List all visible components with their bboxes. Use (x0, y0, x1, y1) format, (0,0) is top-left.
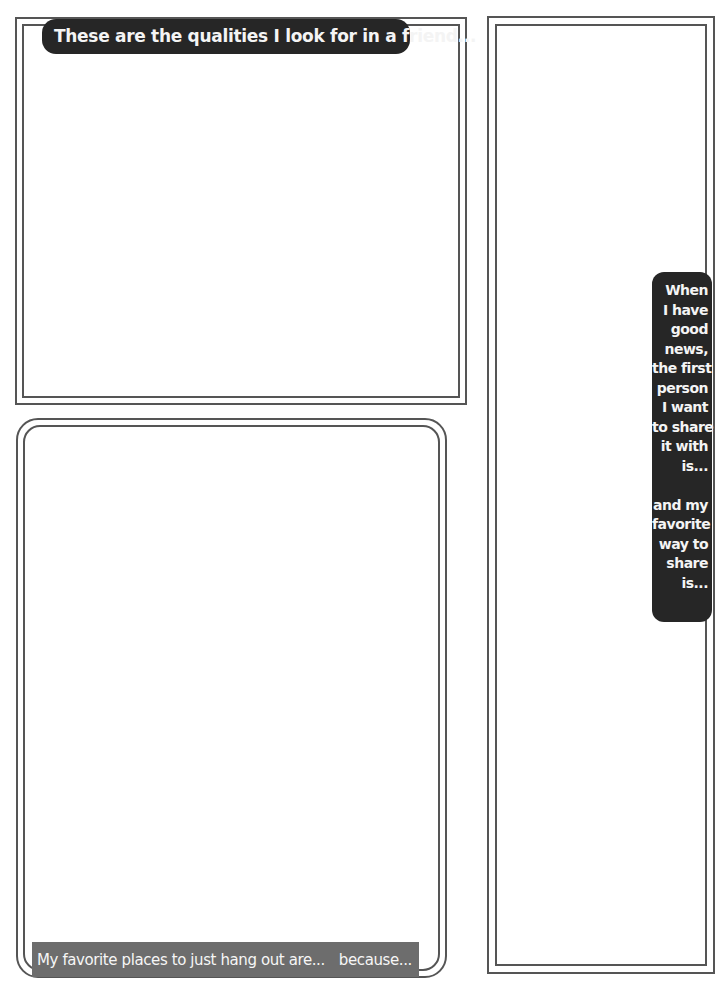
prompt-line: is... (652, 574, 708, 594)
prompt-line: share (652, 554, 708, 574)
prompt-line: is... (652, 457, 708, 477)
prompt-line: I have (652, 301, 708, 321)
prompt-line: the first (652, 359, 708, 379)
prompt-line: to share (652, 418, 708, 438)
prompt-line: it with (652, 437, 708, 457)
prompt-line: way to (652, 535, 708, 555)
prompt-line: good (652, 320, 708, 340)
prompt-spacer (652, 476, 708, 496)
hangout-prompt-label: My favorite places to just hang out are.… (32, 942, 419, 977)
qualities-writing-box[interactable] (15, 17, 467, 405)
qualities-prompt-label: These are the qualities I look for in a … (42, 19, 410, 54)
prompt-line: When (652, 281, 708, 301)
prompt-line: person (652, 379, 708, 399)
hangout-box-inner-border (23, 425, 440, 971)
prompt-line: favorite (652, 515, 708, 535)
good-news-prompt-label: When I have good news, the first person … (652, 272, 712, 622)
prompt-line: I want (652, 398, 708, 418)
qualities-box-inner-border (22, 24, 460, 398)
prompt-line: news, (652, 340, 708, 360)
prompt-line: and my (652, 496, 708, 516)
because-prompt-text: because... (339, 951, 412, 969)
hangout-prompt-text: My favorite places to just hang out are.… (37, 951, 325, 969)
hangout-places-writing-box[interactable] (16, 418, 447, 978)
